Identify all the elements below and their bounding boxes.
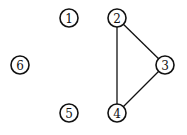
node-1: 1 bbox=[60, 9, 78, 27]
node-2: 2 bbox=[108, 9, 126, 27]
edge-3-4 bbox=[117, 65, 165, 113]
node-label: 2 bbox=[113, 12, 121, 26]
node-label: 5 bbox=[65, 107, 73, 121]
node-label: 4 bbox=[113, 107, 121, 121]
node-3: 3 bbox=[156, 56, 174, 74]
node-label: 3 bbox=[161, 59, 169, 73]
nodes-layer: 123456 bbox=[11, 9, 174, 122]
node-label: 1 bbox=[65, 12, 73, 26]
node-6: 6 bbox=[11, 56, 29, 74]
graph-diagram: 123456 bbox=[0, 0, 187, 135]
edge-2-3 bbox=[117, 18, 165, 65]
node-label: 6 bbox=[16, 59, 24, 73]
node-4: 4 bbox=[108, 104, 126, 122]
node-5: 5 bbox=[60, 104, 78, 122]
